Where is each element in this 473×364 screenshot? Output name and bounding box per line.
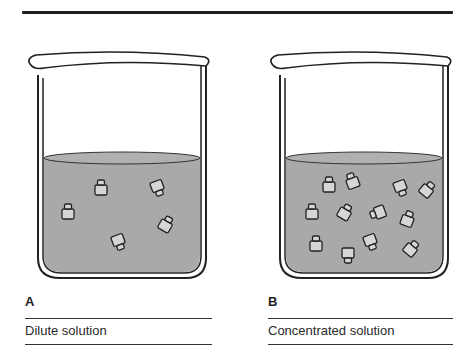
- panel-b-caption: Concentrated solution: [268, 323, 394, 338]
- beaker-a: [29, 52, 209, 278]
- panel-a-rule-bottom: [25, 344, 212, 345]
- panel-b-letter: B: [268, 294, 277, 309]
- beaker-illustrations: [0, 0, 473, 364]
- beaker-b: [271, 52, 451, 278]
- panel-b-rule-bottom: [268, 344, 453, 345]
- panel-a-rule-top: [25, 318, 212, 319]
- panel-a-caption: Dilute solution: [25, 323, 107, 338]
- panel-b-rule-top: [268, 318, 453, 319]
- panel-a-letter: A: [25, 294, 34, 309]
